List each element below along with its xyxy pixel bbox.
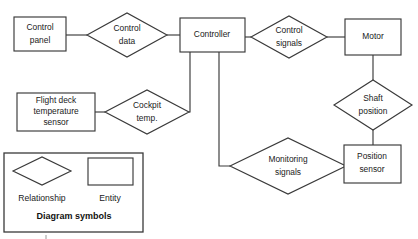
relationship-control-data-label-line-2: data (119, 36, 136, 46)
relationship-control-data-label-line-1: Control (114, 23, 141, 33)
relationship-shaft-position-label-line-1: Shaft (363, 93, 383, 103)
entity-position-sensor-label-line-2: sensor (359, 164, 384, 174)
relationship-control-signals-label-line-1: Control (276, 25, 303, 35)
relationship-shaft-position[interactable]: Shaft position (334, 80, 412, 130)
er-diagram-svg: Control panel Control data Controller Co… (0, 0, 418, 239)
entity-controller[interactable]: Controller (180, 18, 245, 52)
relationship-monitoring-signals-label-line-2: signals (275, 167, 301, 177)
entity-controller-label-line-1: Controller (194, 29, 231, 39)
relationship-control-signals[interactable]: Control signals (251, 16, 327, 58)
relationship-control-data-diamond (87, 13, 167, 57)
connector-controller-to-monitoring-signals (219, 52, 230, 166)
relationship-cockpit-temp-label-line-2: temp. (137, 113, 158, 123)
relationship-control-signals-label-line-2: signals (276, 38, 302, 48)
entity-control-panel-label-line-1: Control (27, 22, 54, 32)
entity-motor[interactable]: Motor (345, 19, 401, 55)
legend-relationship-label: Relationship (18, 193, 66, 203)
connector-group (66, 35, 373, 166)
legend-title: Diagram symbols (36, 211, 111, 221)
legend-entity-symbol-box (88, 158, 133, 185)
er-diagram-canvas: Control panel Control data Controller Co… (0, 0, 418, 239)
connector-controller-to-cockpit-temp (189, 52, 190, 112)
entity-flight-deck-temperature-sensor-label-line-3: sensor (43, 117, 68, 127)
legend-entity-label: Entity (99, 193, 121, 203)
entity-flight-deck-temperature-sensor[interactable]: Flight deck temperature sensor (17, 93, 95, 131)
entity-position-sensor[interactable]: Position sensor (344, 145, 401, 183)
entity-flight-deck-temperature-sensor-label-line-1: Flight deck (36, 95, 77, 105)
relationship-monitoring-signals[interactable]: Monitoring signals (230, 138, 346, 194)
relationship-monitoring-signals-diamond (230, 138, 346, 194)
relationship-monitoring-signals-label-line-1: Monitoring (268, 154, 307, 164)
diagram-symbols-legend: Relationship Entity Diagram symbols (4, 153, 143, 232)
relationship-cockpit-temp[interactable]: Cockpit temp. (105, 90, 189, 134)
entity-control-panel-label-line-2: panel (30, 35, 51, 45)
relationship-control-signals-diamond (251, 16, 327, 58)
relationship-control-data[interactable]: Control data (87, 13, 167, 57)
relationship-cockpit-temp-label-line-1: Cockpit (133, 100, 162, 110)
entity-motor-label-line-1: Motor (362, 31, 384, 41)
entity-flight-deck-temperature-sensor-label-line-2: temperature (33, 106, 78, 116)
relationship-shaft-position-label-line-2: position (359, 106, 388, 116)
relationship-shaft-position-diamond (334, 80, 412, 130)
entity-control-panel[interactable]: Control panel (14, 17, 66, 51)
relationship-cockpit-temp-diamond (105, 90, 189, 134)
entity-position-sensor-label-line-1: Position (357, 151, 387, 161)
